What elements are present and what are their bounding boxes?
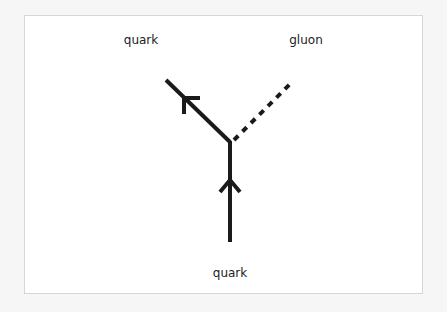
label-outgoing-quark: quark: [124, 33, 158, 47]
outgoing-quark-line: [166, 80, 230, 142]
label-gluon: gluon: [289, 33, 323, 47]
label-incoming-quark: quark: [213, 266, 247, 280]
gluon-line: [234, 82, 292, 140]
